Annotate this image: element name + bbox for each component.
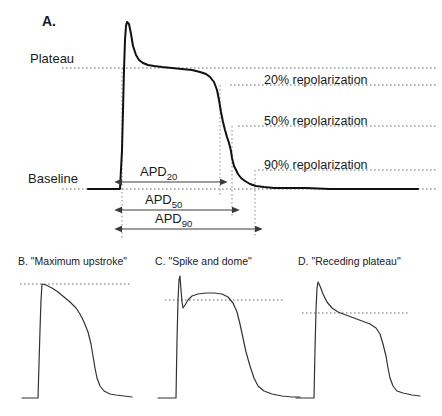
figure-svg xyxy=(0,0,442,416)
panel-d-trace xyxy=(296,282,420,398)
panel-c-graphic xyxy=(158,276,300,398)
panel-b-trace xyxy=(22,284,132,398)
panel-d-graphic xyxy=(296,282,420,398)
panel-a-reference-lines xyxy=(62,68,438,189)
panel-b-graphic xyxy=(20,284,132,398)
panel-a-action-potential-trace xyxy=(88,22,418,189)
figure-container: A. Plateau Baseline 20% repolarization 5… xyxy=(0,0,442,416)
panel-c-trace xyxy=(158,276,300,398)
panel-a-drop-lines xyxy=(122,68,255,240)
